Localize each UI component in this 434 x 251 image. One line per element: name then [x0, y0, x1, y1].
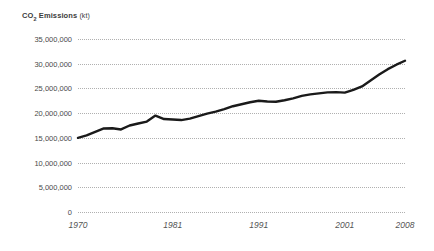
x-axis-tick-labels: 19701981199120012008 — [0, 220, 434, 236]
series-polyline — [78, 61, 405, 138]
y-axis-tick-label: 5,000,000 — [0, 183, 72, 192]
chart-title-main: CO — [22, 11, 33, 20]
y-axis-tick-label: 0 — [0, 208, 72, 217]
x-axis-tick-label: 1981 — [163, 220, 182, 230]
y-axis-tick-labels: 35,000,00030,000,00025,000,00020,000,000… — [0, 39, 72, 212]
y-axis-tick-label: 35,000,000 — [0, 35, 72, 44]
x-axis-tick-label: 1991 — [249, 220, 268, 230]
y-axis-tick-label: 15,000,000 — [0, 133, 72, 142]
x-axis-tick-label: 1970 — [69, 220, 88, 230]
chart-title-unit: (kt) — [79, 12, 90, 19]
y-axis-tick-label: 30,000,000 — [0, 59, 72, 68]
y-axis-tick-label: 10,000,000 — [0, 158, 72, 167]
series-line-co2-emissions — [78, 39, 405, 212]
y-axis-tick-label: 25,000,000 — [0, 84, 72, 93]
y-axis-tick-label: 20,000,000 — [0, 109, 72, 118]
x-axis-tick-label: 2008 — [396, 220, 415, 230]
gridline — [78, 212, 405, 213]
chart-title-rest: Emissions — [37, 11, 78, 20]
plot-area — [78, 39, 405, 212]
x-axis-tick-label: 2001 — [335, 220, 354, 230]
co2-emissions-line-chart: CO2 Emissions (kt) 35,000,00030,000,0002… — [0, 0, 434, 251]
chart-title: CO2 Emissions (kt) — [22, 11, 90, 22]
